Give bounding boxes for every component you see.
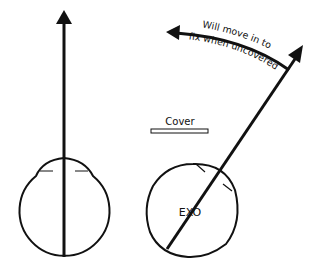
movement-arrowhead-icon <box>166 25 180 40</box>
cover-occluder <box>151 129 208 133</box>
right-cornea-mark-lower <box>223 184 232 191</box>
right-eye: EXO <box>147 45 303 257</box>
right-visual-axis-line <box>167 56 297 249</box>
left-eye <box>20 10 110 257</box>
cover: Cover <box>151 116 208 133</box>
left-visual-axis-arrowhead-icon <box>56 10 72 24</box>
exo-label: EXO <box>179 206 202 219</box>
movement-arrow: Will move in to fix when uncovered <box>166 18 289 71</box>
cover-label: Cover <box>165 116 195 127</box>
cover-test-diagram: Cover EXO Will move in to fix when uncov… <box>0 0 317 272</box>
